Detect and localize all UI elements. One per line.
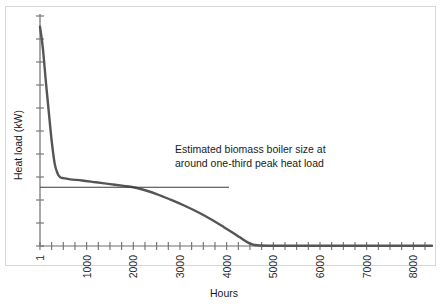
x-tick-label: 8000 <box>407 255 419 279</box>
x-tick-label: 5000 <box>267 255 279 279</box>
heat-load-duration-chart: 110002000300040005000600070008000 Heat l… <box>0 0 441 307</box>
x-tick-label: 6000 <box>314 255 326 279</box>
boiler-size-label-line2: around one-third peak heat load <box>175 157 324 169</box>
chart-figure: 110002000300040005000600070008000 Heat l… <box>0 0 441 307</box>
heat-load-curve <box>40 27 432 246</box>
x-tick-labels: 110002000300040005000600070008000 <box>34 255 419 279</box>
x-axis-title: Hours <box>210 287 238 299</box>
boiler-size-label-line1: Estimated biomass boiler size at <box>175 143 326 155</box>
x-tick-label: 1000 <box>81 255 93 279</box>
y-axis-title: Heat load (kW) <box>12 110 24 180</box>
x-tick-label: 3000 <box>174 255 186 279</box>
x-tick-label: 1 <box>34 255 46 261</box>
x-tick-label: 4000 <box>221 255 233 279</box>
x-tick-label: 7000 <box>361 255 373 279</box>
axes-group <box>40 14 432 246</box>
x-tick-label: 2000 <box>127 255 139 279</box>
